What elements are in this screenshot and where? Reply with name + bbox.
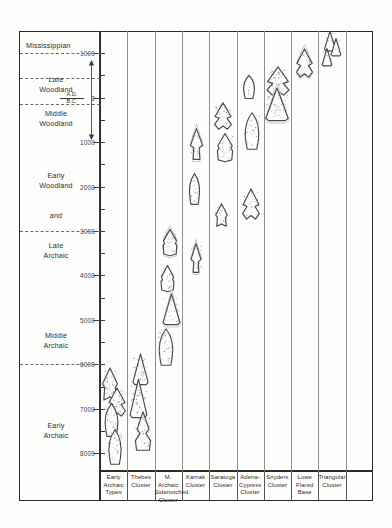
projectile-point [189, 243, 203, 273]
column-divider [155, 31, 156, 471]
column-divider [318, 31, 319, 471]
period-label: MiddleArchaic [20, 331, 92, 350]
column-header-line: Base [291, 489, 318, 497]
period-label-line: and [20, 211, 92, 221]
column-header-2[interactable]: ThebesCluster [127, 474, 154, 489]
axis-tick-label: 8000 [80, 450, 95, 457]
column-divider [209, 31, 210, 471]
projectile-point [188, 128, 205, 160]
period-label-line: Early [20, 171, 92, 181]
column-header-line: Karnak [182, 474, 209, 482]
axis-tick-minor [99, 253, 105, 254]
column-header-line: Cluster [155, 497, 182, 505]
ad-bc-text: A.D. B.C. [58, 91, 86, 105]
projectile-point [321, 48, 333, 66]
column-header-line: Flared [291, 482, 318, 490]
column-header-line: Cluster [182, 482, 209, 490]
column-header-line: Cypress [237, 482, 264, 490]
column-header-line: Saratoga [209, 474, 236, 482]
column-divider [182, 31, 183, 471]
projectile-point [161, 293, 182, 325]
period-label-line: Archaic [20, 430, 92, 440]
axis-tick-minor [99, 342, 105, 343]
projectile-point [106, 429, 124, 465]
column-header-line: Early [100, 474, 127, 482]
projectile-point [133, 411, 153, 451]
column-header-line: Thebes [127, 474, 154, 482]
column-header-line: Adena- [237, 474, 264, 482]
column-header-8[interactable]: LoweFlaredBase [291, 474, 318, 497]
column-header-line: Cluster [318, 482, 345, 490]
column-header-5[interactable]: SaratogaCluster [209, 474, 236, 489]
column-header-line: Types [100, 489, 127, 497]
period-label-line: Early [20, 421, 92, 431]
column-header-line: M. Archaic [155, 474, 182, 489]
ad-bc-marker: A.D. B.C. [58, 60, 100, 140]
column-header-7[interactable]: SnydersCluster [264, 474, 291, 489]
column-header-line: Cluster [127, 482, 154, 490]
column-header-line: Cluster [264, 482, 291, 490]
column-header-line: Snyders [264, 474, 291, 482]
projectile-point [213, 203, 230, 227]
projectile-point [156, 328, 176, 366]
projectile-point [161, 228, 179, 256]
axis-tick-label: 7000 [80, 405, 95, 412]
column-header-line: Lowe [291, 474, 318, 482]
column-header-line: Sidenotched [155, 489, 182, 497]
column-header-line: Cluster [209, 482, 236, 490]
ad-bc-arrow [87, 60, 96, 140]
axis-tick-minor [99, 209, 105, 210]
column-header-line: Triangular [318, 474, 345, 482]
column-header-4[interactable]: KarnakCluster [182, 474, 209, 489]
header-divider [346, 471, 347, 501]
period-label-line: Mississippian [26, 41, 92, 51]
period-label-line: Late [20, 241, 92, 251]
column-header-1[interactable]: EarlyArchaicTypes [100, 474, 127, 497]
projectile-point [295, 48, 314, 78]
projectile-point [263, 87, 291, 121]
axis-tick-minor [99, 164, 105, 165]
column-header-3[interactable]: M. ArchaicSidenotchedCluster [155, 474, 182, 504]
ad-label: A.D. [58, 91, 86, 98]
axis-tick-label: 5000 [80, 316, 95, 323]
period-boundary [20, 231, 100, 232]
projectile-point [213, 102, 233, 130]
period-label-line: Archaic [20, 250, 92, 260]
period-label: EarlyArchaic [20, 421, 92, 440]
column-header-6[interactable]: Adena-CypressCluster [237, 474, 264, 497]
column-header-9[interactable]: TriangularCluster [318, 474, 345, 489]
projectile-point [241, 188, 261, 220]
period-label-line: Middle [20, 331, 92, 341]
projectile-point [215, 132, 235, 162]
bc-label: B.C. [58, 98, 86, 105]
period-label-line: Woodland [20, 180, 92, 190]
column-header-line: Cluster [237, 489, 264, 497]
chronology-chart: 1000010002000300040005000600070008000 Mi… [0, 0, 392, 528]
column-divider [237, 31, 238, 471]
projectile-point [187, 173, 202, 205]
column-divider [346, 31, 347, 471]
projectile-point [159, 264, 176, 292]
period-label: LateArchaic [20, 241, 92, 260]
period-label: and [20, 211, 92, 221]
period-label: EarlyWoodland [20, 171, 92, 190]
axis-tick-label: 4000 [80, 272, 95, 279]
projectile-point [241, 75, 257, 99]
period-boundary [20, 364, 100, 365]
period-label: Mississippian [20, 41, 92, 51]
column-header-line: Archaic [100, 482, 127, 490]
axis-tick-minor [99, 298, 105, 299]
period-label-line: Archaic [20, 340, 92, 350]
period-boundary [20, 53, 100, 54]
projectile-point [242, 112, 262, 150]
